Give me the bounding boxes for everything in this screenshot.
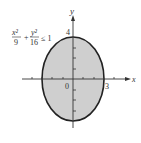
- svg-text:x²: x²: [11, 28, 19, 37]
- svg-text:16: 16: [30, 38, 38, 47]
- origin-label: 0: [65, 82, 69, 91]
- inequality-label: x² 9 + y² 16 ≤ 1: [11, 28, 51, 47]
- ellipse-region-diagram: y x 0 3 4 x² 9 + y² 16 ≤ 1: [0, 0, 141, 143]
- y-axis-label: y: [69, 6, 74, 16]
- svg-text:+: +: [24, 33, 29, 42]
- svg-text:y²: y²: [30, 28, 38, 37]
- x-tick-3-label: 3: [105, 82, 109, 91]
- svg-text:≤ 1: ≤ 1: [41, 34, 51, 43]
- y-tick-4-label: 4: [66, 28, 70, 37]
- x-axis-label: x: [131, 75, 136, 84]
- svg-text:9: 9: [14, 38, 18, 47]
- x-axis-arrow-icon: [125, 77, 131, 81]
